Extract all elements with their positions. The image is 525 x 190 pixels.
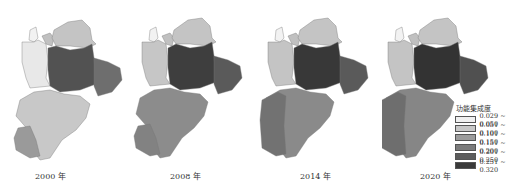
region-center: [168, 42, 216, 90]
map-panel-2000: 2000 年: [0, 0, 130, 190]
region-nw2: [395, 27, 404, 42]
region-north: [418, 18, 462, 46]
region-nw2: [149, 27, 158, 42]
region-center: [294, 42, 342, 90]
region-east: [214, 56, 242, 94]
year-caption: 2008 年: [170, 170, 201, 181]
legend-item: 0.251 ~ 0.320: [455, 161, 525, 170]
legend-range: 0.251 ~ 0.320: [479, 158, 525, 174]
legend: 功能集成度 0.029 ~ 0.050 0.051 ~ 0.100 0.101 …: [455, 103, 525, 170]
region-north: [298, 18, 342, 46]
region-center: [414, 42, 462, 90]
year-caption: 2020 年: [420, 170, 451, 181]
legend-swatch: [455, 144, 476, 151]
legend-swatch: [455, 134, 476, 141]
region-north: [172, 18, 216, 46]
map-panel-2014: 2014 年: [256, 0, 386, 190]
legend-swatch: [455, 153, 476, 160]
region-nw2: [29, 27, 38, 42]
region-east: [94, 58, 122, 96]
choropleth-map: [0, 0, 130, 170]
region-sw: [260, 92, 286, 156]
region-nw2: [275, 27, 284, 42]
region-nw: [142, 40, 170, 86]
map-panel-2008: 2008 年: [130, 0, 260, 190]
year-caption: 2000 年: [35, 170, 66, 181]
legend-swatch: [455, 125, 476, 132]
region-nw: [22, 40, 50, 88]
legend-swatch: [455, 116, 476, 123]
region-nw: [268, 40, 296, 86]
region-nw: [388, 40, 416, 86]
region-east: [340, 56, 368, 94]
region-north: [52, 20, 96, 48]
legend-swatch: [455, 162, 476, 169]
region-center: [48, 44, 96, 92]
region-east: [460, 56, 488, 94]
choropleth-map: [256, 0, 386, 170]
choropleth-map: [130, 0, 260, 170]
region-sw: [382, 92, 406, 156]
year-caption: 2014 年: [300, 170, 331, 181]
